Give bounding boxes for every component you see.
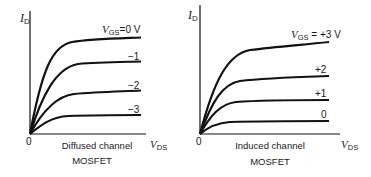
diffused-channel-plot: ID VGS=0 V −1 −2 −3 0 VDS Diffused chann… [19, 11, 167, 166]
curve-vgs-plus2 [200, 76, 329, 134]
curve-vgs-minus3 [30, 115, 141, 134]
curve-label-minus3: −3 [128, 104, 140, 115]
curve-label-minus2: −2 [128, 80, 140, 91]
x-axis-label: VDS [150, 138, 167, 152]
vgs-label: VGS = +3 V [291, 28, 341, 42]
vgs-label: VGS=0 V [102, 23, 141, 37]
curve-label-0: 0 [321, 109, 327, 120]
caption-line2: MOSFET [250, 156, 290, 167]
caption-line1: Diffused channel [62, 140, 133, 151]
curve-vgs-0 [30, 38, 141, 135]
curve-vgs-plus1 [200, 100, 329, 134]
origin-label: 0 [26, 136, 32, 147]
origin-label: 0 [196, 136, 202, 147]
curve-label-minus1: −1 [128, 51, 140, 62]
x-axis-label: VDS [341, 138, 358, 152]
caption-line1: Induced channel [235, 140, 305, 151]
curve-vgs-minus2 [30, 91, 141, 135]
y-axis-label: ID [19, 11, 30, 26]
induced-channel-plot: ID VGS = +3 V +2 +1 0 0 VDS Induced chan… [187, 5, 358, 167]
curve-label-plus2: +2 [315, 64, 327, 75]
mosfet-characteristics-diagram: ID VGS=0 V −1 −2 −3 0 VDS Diffused chann… [0, 0, 371, 177]
caption-line2: MOSFET [72, 155, 112, 166]
y-axis-label: ID [187, 8, 198, 23]
curve-label-plus1: +1 [315, 88, 327, 99]
curve-vgs-0 [200, 121, 329, 134]
